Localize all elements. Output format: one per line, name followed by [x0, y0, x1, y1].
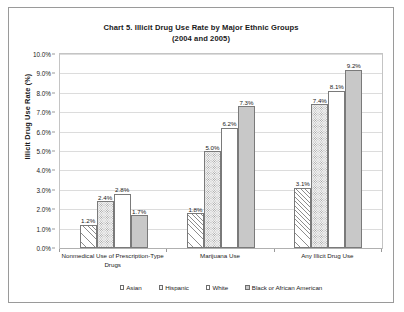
- y-axis-tick-label: 6.0%: [36, 128, 51, 135]
- bar-group: 3.1%7.4%8.1%9.2%: [275, 54, 382, 248]
- y-axis-tick-mark: [52, 151, 55, 152]
- bar[interactable]: 7.3%: [238, 106, 255, 248]
- y-axis-tick-label: 0.0%: [36, 245, 51, 252]
- x-axis-category-label-line: Marijuana Use: [166, 252, 273, 261]
- y-axis-tick-label: 4.0%: [36, 167, 51, 174]
- y-axis-tick-labels: 10.0%9.0%8.0%7.0%6.0%5.0%4.0%3.0%2.0%1.0…: [9, 53, 55, 249]
- bar-value-label: 8.1%: [330, 83, 344, 90]
- y-axis-tick-label: 3.0%: [36, 186, 51, 193]
- y-axis-tick-label: 9.0%: [36, 70, 51, 77]
- legend-swatch-icon: [159, 285, 164, 290]
- x-axis-category-label: Any Illicit Drug Use: [274, 252, 381, 261]
- bar-value-label: 1.2%: [81, 217, 95, 224]
- bar[interactable]: 1.8%: [187, 213, 204, 248]
- bar-value-label: 2.8%: [115, 186, 129, 193]
- legend-label: Black or African American: [252, 284, 323, 291]
- y-axis-tick-label: 10.0%: [33, 51, 51, 58]
- legend-swatch-icon: [245, 285, 250, 290]
- y-axis-tick-mark: [52, 170, 55, 171]
- bar[interactable]: 1.7%: [131, 215, 148, 248]
- legend-swatch-icon: [120, 285, 125, 290]
- y-axis-tick-mark: [52, 92, 55, 93]
- bar-value-label: 1.8%: [188, 206, 202, 213]
- bar[interactable]: 2.4%: [97, 201, 114, 248]
- x-axis-category-label-line: Nonmedical Use of Prescription-Type: [59, 252, 166, 261]
- x-axis-tick-mark: [59, 249, 60, 252]
- chart-title-line-1: Chart 5. Illicit Drug Use Rate by Major …: [9, 22, 393, 33]
- y-axis-tick-label: 2.0%: [36, 206, 51, 213]
- bar-value-label: 2.4%: [98, 194, 112, 201]
- x-axis-category-labels: Nonmedical Use of Prescription-TypeDrugs…: [59, 252, 383, 278]
- legend-label: White: [212, 284, 228, 291]
- bars-layer: 1.2%2.4%2.8%1.7%1.8%5.0%6.2%7.3%3.1%7.4%…: [60, 54, 382, 248]
- legend-item[interactable]: Asian: [120, 284, 142, 291]
- y-axis-tick-mark: [52, 209, 55, 210]
- y-axis-tick-mark: [52, 189, 55, 190]
- legend-label: Asian: [126, 284, 141, 291]
- y-axis-tick-label: 8.0%: [36, 89, 51, 96]
- y-axis-tick-mark: [52, 54, 55, 55]
- y-axis-tick-mark: [52, 248, 55, 249]
- bar[interactable]: 5.0%: [204, 151, 221, 248]
- bar-group: 1.2%2.4%2.8%1.7%: [60, 54, 167, 248]
- bar-value-label: 9.2%: [347, 62, 361, 69]
- bar[interactable]: 6.2%: [221, 128, 238, 248]
- bar-value-label: 1.7%: [132, 208, 146, 215]
- y-axis-tick-mark: [52, 131, 55, 132]
- bar-value-label: 5.0%: [205, 144, 219, 151]
- x-axis-tick-mark: [381, 249, 382, 252]
- x-axis-category-label-line: Drugs: [59, 261, 166, 270]
- y-axis-tick-mark: [52, 112, 55, 113]
- y-axis-tick-label: 1.0%: [36, 225, 51, 232]
- y-axis-tick-mark: [52, 228, 55, 229]
- x-axis-tick-mark: [274, 249, 275, 252]
- x-axis-category-label-line: Any Illicit Drug Use: [274, 252, 381, 261]
- bar-group: 1.8%5.0%6.2%7.3%: [167, 54, 274, 248]
- chart-title: Chart 5. Illicit Drug Use Rate by Major …: [9, 22, 393, 44]
- legend-swatch-icon: [206, 285, 211, 290]
- legend-item[interactable]: Black or African American: [245, 284, 322, 291]
- bar[interactable]: 2.8%: [114, 194, 131, 248]
- y-axis-tick-label: 5.0%: [36, 148, 51, 155]
- bar[interactable]: 8.1%: [328, 91, 345, 248]
- bar-value-label: 3.1%: [296, 180, 310, 187]
- x-axis-category-label: Nonmedical Use of Prescription-TypeDrugs: [59, 252, 166, 269]
- legend-item[interactable]: White: [206, 284, 228, 291]
- bar-value-label: 7.4%: [313, 97, 327, 104]
- y-axis-tick-label: 7.0%: [36, 109, 51, 116]
- x-axis-category-label: Marijuana Use: [166, 252, 273, 261]
- x-axis-tick-mark: [166, 249, 167, 252]
- bar[interactable]: 7.4%: [311, 104, 328, 248]
- chart-title-line-2: (2004 and 2005): [9, 33, 393, 44]
- legend-item[interactable]: Hispanic: [159, 284, 189, 291]
- bar[interactable]: 9.2%: [345, 70, 362, 248]
- bar[interactable]: 1.2%: [80, 225, 97, 248]
- chart-container: Chart 5. Illicit Drug Use Rate by Major …: [8, 7, 394, 303]
- gridline: [60, 248, 382, 249]
- y-axis-tick-mark: [52, 73, 55, 74]
- legend-label: Hispanic: [165, 284, 189, 291]
- chart-legend: AsianHispanicWhiteBlack or African Ameri…: [59, 284, 383, 291]
- bar-value-label: 6.2%: [222, 120, 236, 127]
- plot-area: 1.2%2.4%2.8%1.7%1.8%5.0%6.2%7.3%3.1%7.4%…: [59, 53, 383, 249]
- bar[interactable]: 3.1%: [294, 188, 311, 248]
- bar-value-label: 7.3%: [239, 99, 253, 106]
